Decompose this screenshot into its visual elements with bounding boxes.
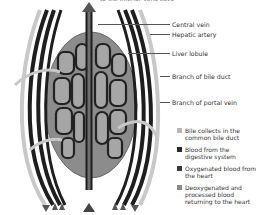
legend-label: Oxygenated blood from the heart	[185, 165, 256, 179]
label-central-vein: Central vein	[172, 21, 210, 28]
leader-line	[160, 102, 170, 103]
label-bile-duct: Branch of bile duct	[172, 73, 231, 80]
label-hepatic-artery: Hepatic artery	[172, 31, 216, 38]
leader-line	[128, 53, 170, 54]
label-portal-vein: Branch of portal vein	[172, 99, 237, 106]
legend-item-deoxygenated-blood: Deoxygenated and processed blood returni…	[176, 184, 258, 205]
legend-label: Blood from the digestive system	[185, 146, 236, 160]
swatch-icon	[177, 185, 182, 190]
legend-label: Bile collects in the common bile duct	[185, 127, 240, 141]
label-liver-lobule: Liver lobule	[172, 50, 208, 57]
leader-line	[160, 76, 170, 77]
legend-item-oxygenated-blood: Oxygenated blood from the heart	[176, 165, 258, 179]
swatch-icon	[177, 147, 182, 152]
leader-line	[150, 34, 170, 35]
legend-item-bile: Bile collects in the common bile duct	[176, 127, 258, 141]
top-caption: to the inferior vena cava	[100, 0, 174, 2]
swatch-icon	[177, 128, 182, 133]
legend-item-digestive-blood: Blood from the digestive system	[176, 146, 258, 160]
liver-lobule-diagram: to the inferior vena cava Central vein H…	[0, 0, 258, 215]
legend: Bile collects in the common bile duct Bl…	[176, 127, 258, 210]
leader-line	[98, 24, 170, 25]
legend-label: Deoxygenated and processed blood returni…	[185, 184, 250, 205]
up-arrow-icon	[82, 2, 96, 12]
swatch-icon	[177, 166, 182, 171]
